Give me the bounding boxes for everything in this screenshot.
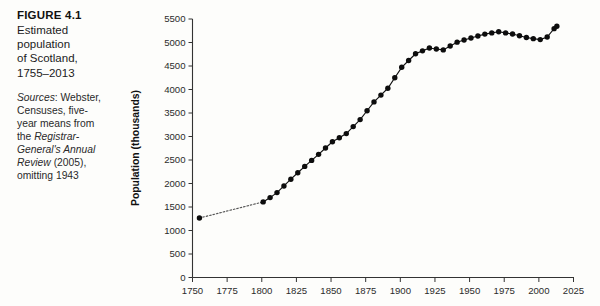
data-point	[351, 124, 356, 129]
data-point	[344, 131, 349, 136]
data-series	[197, 24, 560, 221]
y-tick-label: 0	[180, 272, 185, 283]
data-point	[510, 31, 515, 36]
y-axis-title: Population (thousands)	[130, 90, 141, 206]
y-tick-label: 500	[169, 248, 185, 259]
data-point	[475, 33, 480, 38]
data-point	[461, 37, 466, 42]
data-point	[302, 164, 307, 169]
series-dotted-segment	[199, 202, 263, 218]
y-tick-label: 1000	[164, 225, 185, 236]
x-tick-label: 1850	[320, 285, 341, 296]
data-point	[274, 190, 279, 195]
data-point	[316, 152, 321, 157]
data-point	[309, 158, 314, 163]
data-point	[420, 48, 425, 53]
data-point	[531, 36, 536, 41]
data-point	[489, 30, 494, 35]
data-point	[337, 135, 342, 140]
data-point	[399, 65, 404, 70]
data-point	[468, 35, 473, 40]
x-tick-label: 1900	[390, 285, 411, 296]
data-point	[503, 30, 508, 35]
x-axis: 1750177518001825185018751900192519501975…	[182, 278, 584, 296]
line-chart-svg: 0500100015002000250030003500400045005000…	[0, 0, 600, 306]
y-tick-label: 4500	[164, 60, 185, 71]
data-point	[357, 117, 362, 122]
data-point	[517, 33, 522, 38]
x-tick-label: 2025	[563, 285, 584, 296]
y-tick-label: 3000	[164, 131, 185, 142]
x-tick-label: 1925	[424, 285, 445, 296]
data-point	[538, 37, 543, 42]
figure-container: FIGURE 4.1 Estimated population of Scotl…	[0, 0, 600, 306]
y-tick-label: 5500	[164, 13, 185, 24]
x-tick-label: 1950	[459, 285, 480, 296]
data-point	[524, 35, 529, 40]
y-tick-label: 2000	[164, 178, 185, 189]
y-axis-ticks: 0500100015002000250030003500400045005000…	[164, 13, 192, 283]
data-point	[392, 75, 397, 80]
data-point	[434, 46, 439, 51]
data-point	[413, 51, 418, 56]
data-point	[554, 24, 559, 29]
data-point	[330, 139, 335, 144]
x-tick-label: 1750	[182, 285, 203, 296]
x-tick-label: 1975	[494, 285, 515, 296]
y-tick-label: 1500	[164, 201, 185, 212]
y-axis: 0500100015002000250030003500400045005000…	[130, 13, 193, 283]
x-tick-label: 1775	[216, 285, 237, 296]
data-point	[544, 34, 549, 39]
x-tick-label: 2000	[528, 285, 549, 296]
y-tick-label: 4000	[164, 84, 185, 95]
y-tick-label: 5000	[164, 37, 185, 48]
data-point	[323, 145, 328, 150]
data-point	[281, 183, 286, 188]
series-solid-line	[263, 26, 557, 202]
data-point	[267, 195, 272, 200]
x-tick-label: 1825	[286, 285, 307, 296]
data-point	[454, 39, 459, 44]
data-point	[260, 199, 265, 204]
data-point	[482, 31, 487, 36]
x-axis-ticks: 1750177518001825185018751900192519501975…	[182, 278, 584, 296]
data-point	[378, 92, 383, 97]
chart-plot-area: 0500100015002000250030003500400045005000…	[0, 0, 600, 306]
data-point	[406, 58, 411, 63]
data-point	[496, 29, 501, 34]
x-tick-label: 1800	[251, 285, 272, 296]
data-point	[197, 215, 202, 220]
data-point	[295, 170, 300, 175]
y-tick-label: 3500	[164, 107, 185, 118]
data-point	[441, 47, 446, 52]
y-tick-label: 2500	[164, 154, 185, 165]
data-point	[364, 108, 369, 113]
data-point	[385, 86, 390, 91]
x-tick-label: 1875	[355, 285, 376, 296]
data-point	[447, 43, 452, 48]
data-point	[288, 176, 293, 181]
data-point	[427, 45, 432, 50]
data-point	[371, 99, 376, 104]
